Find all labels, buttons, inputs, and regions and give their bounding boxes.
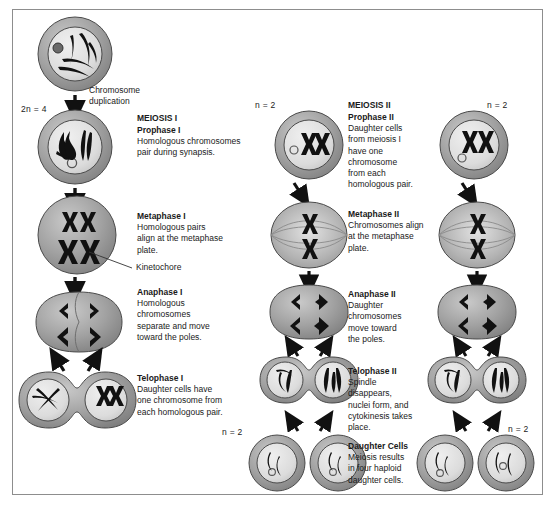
ploidy-mid-top-n: n = 2 (255, 100, 276, 110)
stage-name-telophase-2: Telophase II (348, 366, 440, 377)
stage-name-metaphase-2: Metaphase II (348, 209, 452, 220)
stage-name-telophase-1: Telophase I (137, 373, 255, 384)
stage-desc-anaphase-1: Homologous chromosomes separate and move… (137, 298, 210, 342)
ploidy-parent-2n: 2n = 4 (21, 104, 47, 114)
ploidy-mid-bottom-n: n = 2 (222, 427, 243, 437)
figure-border (12, 9, 543, 495)
stage-name-anaphase-1: Anaphase I (137, 287, 247, 298)
caption-prophase-1: Prophase I Homologous chromosomes pair d… (137, 125, 259, 159)
caption-daughter-cells: Daughter Cells Meiosis results in four h… (348, 441, 436, 486)
ploidy-right-bottom-n: n = 2 (508, 424, 529, 434)
stage-desc-metaphase-2: Chromosomes align at the metaphase plate… (348, 220, 424, 252)
stage-name-anaphase-2: Anaphase II (348, 289, 432, 300)
caption-anaphase-2: Anaphase II Daughter chromosomes move to… (348, 289, 432, 345)
caption-telophase-2: Telophase II Spindle disappears, nuclei … (348, 366, 440, 433)
meiosis-2-header: MEIOSIS II (348, 100, 391, 111)
caption-telophase-1: Telophase I Daughter cells have one chro… (137, 373, 255, 418)
stage-name-prophase-1: Prophase I (137, 125, 259, 136)
stage-desc-prophase-1: Homologous chromosomes pair during synap… (137, 136, 240, 157)
caption-metaphase-2: Metaphase II Chromosomes align at the me… (348, 209, 452, 254)
caption-metaphase-1: Metaphase I Homologous pairs align at th… (137, 211, 249, 256)
caption-anaphase-1: Anaphase I Homologous chromosomes separa… (137, 287, 247, 343)
meiosis-1-header: MEIOSIS I (137, 113, 177, 124)
stage-desc-telophase-1: Daughter cells have one chromosome from … (137, 384, 223, 416)
stage-name-metaphase-1: Metaphase I (137, 211, 249, 222)
stage-desc-daughter-cells: Meiosis results in four haploid daughter… (348, 452, 404, 484)
kinetochore-label: Kinetochore (136, 262, 181, 273)
stage-desc-anaphase-2: Daughter chromosomes move toward the pol… (348, 300, 401, 344)
stage-desc-telophase-2: Spindle disappears, nuclei form, and cyt… (348, 377, 412, 432)
stage-desc-metaphase-1: Homologous pairs align at the metaphase … (137, 222, 223, 254)
stage-name-daughter-cells: Daughter Cells (348, 441, 436, 452)
chromosome-duplication-label: Chromosome duplication (89, 85, 140, 107)
stage-desc-prophase-2: Daughter cells from meiosis I have one c… (348, 123, 413, 189)
stage-name-prophase-2: Prophase II (348, 112, 426, 123)
meiosis-figure: Chromosome duplication Kinetochore MEIOS… (0, 0, 556, 507)
caption-prophase-2: Prophase II Daughter cells from meiosis … (348, 112, 426, 190)
ploidy-right-top-n: n = 2 (487, 100, 508, 110)
